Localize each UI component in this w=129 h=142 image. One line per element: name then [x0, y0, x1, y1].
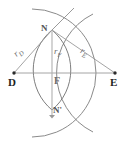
label-point-e: E [110, 76, 117, 88]
lens-left-arc-icon [33, 30, 52, 110]
point-e-dot [113, 71, 116, 74]
point-d-dot [12, 71, 15, 74]
label-point-n: N [41, 23, 48, 33]
label-point-nprime: N' [53, 105, 62, 115]
label-point-d: D [8, 76, 16, 88]
label-segment-rf: rF [54, 46, 62, 58]
label-rf-sub: F [58, 51, 62, 58]
label-point-f: F [54, 75, 60, 86]
ray-beyond-n [52, 8, 74, 30]
diagram-svg [0, 0, 129, 142]
figure-canvas: D E N F N' rD rE rF [0, 0, 129, 142]
